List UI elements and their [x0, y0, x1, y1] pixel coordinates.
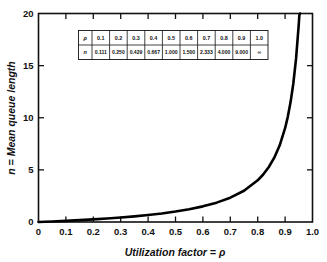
x-axis-title: Utilization factor = ρ [125, 246, 226, 258]
inset-table-cell-n: 2.333 [200, 49, 213, 55]
inset-table-cell-n: 1.500 [182, 49, 195, 55]
x-tick-label: 1.0 [306, 226, 319, 237]
y-tick-label: 5 [28, 164, 34, 175]
x-tick-label: 0.1 [59, 226, 73, 237]
inset-table-cell-rho: 0.9 [238, 35, 246, 41]
inset-table-cell-rho: 0.7 [203, 35, 211, 41]
inset-table-cell-rho: 0.3 [132, 35, 140, 41]
inset-table-cell-rho: 0.4 [150, 35, 158, 41]
inset-table-cell-n: 0.667 [147, 49, 160, 55]
x-tick-label: 0.4 [141, 226, 155, 237]
x-tick-label: 0.9 [278, 226, 291, 237]
y-tick-label: 10 [23, 112, 34, 123]
x-tick-label: 0.8 [251, 226, 264, 237]
inset-table-cell-rho: 0.6 [185, 35, 193, 41]
inset-table-cell-rho: 1.0 [255, 35, 263, 41]
y-tick-label: 20 [23, 8, 34, 19]
inset-table-row-label-rho: ρ [83, 35, 88, 41]
x-tick-label: 0.7 [224, 226, 237, 237]
inset-table-cell-n: 0.250 [112, 49, 125, 55]
y-tick-label: 0 [28, 216, 33, 227]
inset-table-cell-n: 1.000 [165, 49, 178, 55]
inset-table-cell-n: 9.000 [235, 49, 248, 55]
inset-table-cell-n: 4.000 [218, 49, 231, 55]
y-tick-label: 15 [23, 60, 34, 71]
y-axis-title: n = Mean queue length [5, 61, 17, 174]
x-tick-label: 0.6 [196, 226, 209, 237]
inset-table-cell-n: ∞ [257, 49, 261, 55]
x-tick-label: 0.2 [87, 226, 100, 237]
inset-table-cell-n: 0.429 [130, 49, 143, 55]
chart-figure: 00.10.20.30.40.50.60.70.80.91.0 05101520… [0, 0, 327, 262]
inset-table-row-label-n: n [84, 49, 88, 55]
inset-table-cell-rho: 0.1 [97, 35, 105, 41]
x-tick-label: 0.5 [169, 226, 183, 237]
inset-table-cell-rho: 0.8 [220, 35, 228, 41]
inset-table-cell-rho: 0.5 [167, 35, 175, 41]
inset-data-table: ρn0.10.20.30.40.50.60.70.80.91.00.1110.2… [79, 31, 269, 60]
queueing-chart: 00.10.20.30.40.50.60.70.80.91.0 05101520… [0, 0, 327, 262]
inset-table-cell-rho: 0.2 [115, 35, 123, 41]
inset-table-cell-n: 0.111 [95, 49, 107, 55]
x-tick-label: 0.3 [114, 226, 127, 237]
x-tick-label: 0 [36, 226, 41, 237]
